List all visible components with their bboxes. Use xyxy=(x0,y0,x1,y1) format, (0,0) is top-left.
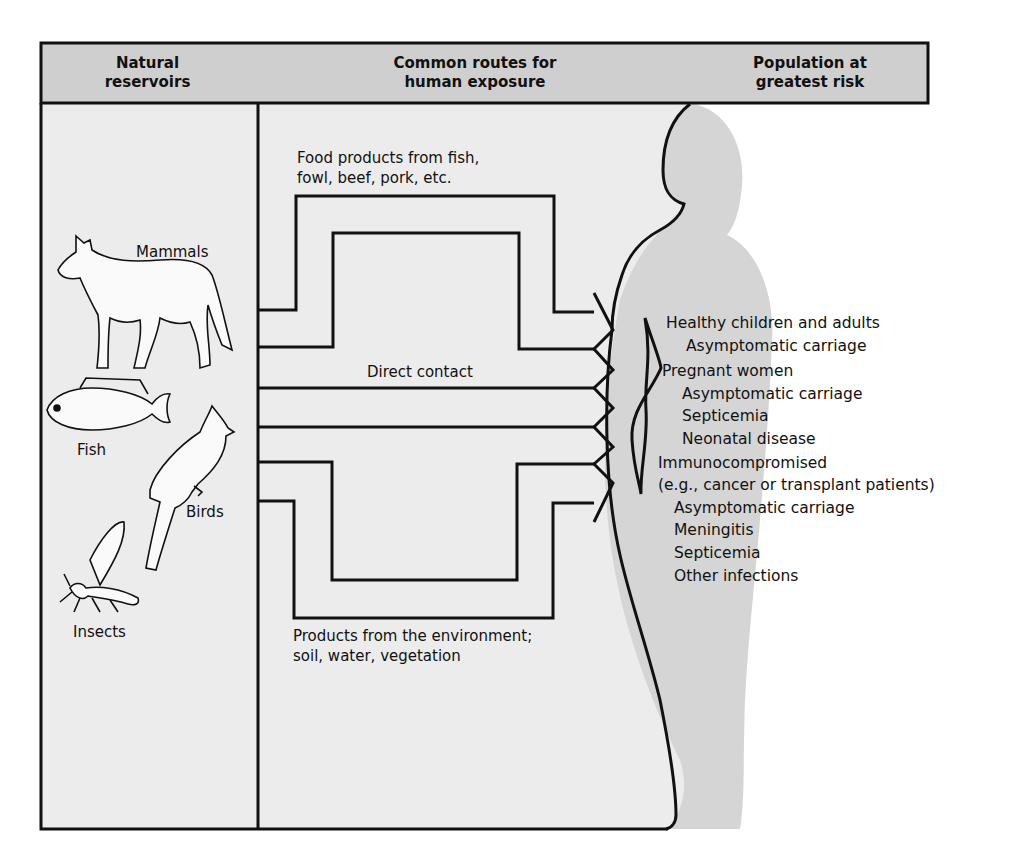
reservoir-label-insects: Insects xyxy=(73,622,126,642)
header-common-routes: Common routes forhuman exposure xyxy=(360,44,590,102)
reservoir-label-birds: Birds xyxy=(186,502,224,522)
header-population-risk: Population atgreatest risk xyxy=(740,44,880,102)
population-outcome: Asymptomatic carriage xyxy=(658,497,935,520)
header-line: Population at xyxy=(753,54,867,73)
population-group-title: Immunocompromised xyxy=(658,452,935,475)
route-environment-line1: Products from the environment; xyxy=(293,626,532,646)
population-group-pregnant: Pregnant women Asymptomatic carriage Sep… xyxy=(662,360,935,450)
header-line: Common routes for xyxy=(394,54,557,73)
population-group-note: (e.g., cancer or transplant patients) xyxy=(658,474,935,497)
reservoir-label-fish: Fish xyxy=(77,440,106,460)
route-environment-line2: soil, water, vegetation xyxy=(293,646,532,666)
header-line: greatest risk xyxy=(753,73,867,92)
population-outcome: Septicemia xyxy=(658,542,935,565)
route-environment-label: Products from the environment; soil, wat… xyxy=(293,626,532,666)
header-line: Natural xyxy=(105,54,191,73)
route-direct-contact-label: Direct contact xyxy=(367,362,473,382)
population-outcome: Meningitis xyxy=(658,519,935,542)
population-risk-list: Healthy children and adults Asymptomatic… xyxy=(666,312,935,587)
population-outcome: Septicemia xyxy=(662,405,935,428)
header-line: reservoirs xyxy=(105,73,191,92)
diagram: Naturalreservoirs Common routes forhuman… xyxy=(0,0,1016,863)
population-outcome: Other infections xyxy=(658,565,935,588)
reservoir-label-mammals: Mammals xyxy=(136,242,209,262)
population-outcome: Asymptomatic carriage xyxy=(666,335,935,358)
route-food-line1: Food products from fish, xyxy=(297,148,479,168)
header-natural-reservoirs: Naturalreservoirs xyxy=(60,44,235,102)
route-food-line2: fowl, beef, pork, etc. xyxy=(297,168,479,188)
route-food-label: Food products from fish, fowl, beef, por… xyxy=(297,148,479,188)
population-outcome: Asymptomatic carriage xyxy=(662,383,935,406)
population-group-title: Healthy children and adults xyxy=(666,312,935,335)
population-group-title: Pregnant women xyxy=(662,360,935,383)
header-line: human exposure xyxy=(394,73,557,92)
population-group-healthy: Healthy children and adults Asymptomatic… xyxy=(666,312,935,357)
population-group-immunocompromised: Immunocompromised (e.g., cancer or trans… xyxy=(658,452,935,588)
population-outcome: Neonatal disease xyxy=(662,428,935,451)
